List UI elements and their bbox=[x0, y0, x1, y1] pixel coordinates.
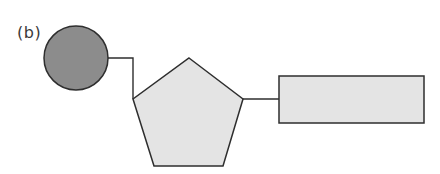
rectangle-shape bbox=[279, 76, 424, 123]
pentagon-shape bbox=[133, 58, 243, 166]
connector-circle-to-pentagon bbox=[108, 58, 133, 99]
diagram: (b) bbox=[0, 0, 440, 174]
circle-shape bbox=[44, 26, 108, 90]
figure-label: (b) bbox=[17, 23, 41, 42]
diagram-canvas bbox=[0, 0, 440, 174]
